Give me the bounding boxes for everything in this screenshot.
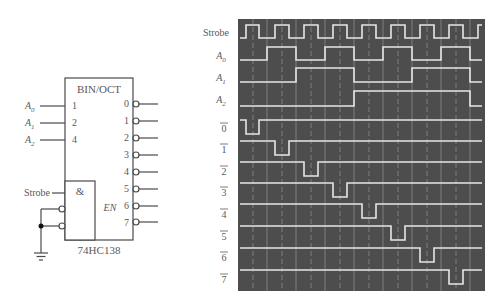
signal-label-out4: 4 <box>222 209 227 220</box>
svg-text:4: 4 <box>124 166 129 177</box>
signal-label-out6: 6 <box>222 252 227 263</box>
svg-text:0: 0 <box>124 98 129 109</box>
svg-text:5: 5 <box>124 183 129 194</box>
figure-canvas: BIN/OCT 74HC138 A0 A1 A2 1 2 4 0 1 2 3 4… <box>0 0 500 307</box>
signal-label-out2: 2 <box>222 166 227 177</box>
ground-icon <box>34 253 48 260</box>
svg-text:3: 3 <box>124 149 129 160</box>
enable-label: EN <box>103 202 118 213</box>
signal-label-out5: 5 <box>222 231 227 242</box>
svg-text:4: 4 <box>72 134 77 145</box>
signal-label-strobe: Strobe <box>203 27 230 38</box>
svg-text:6: 6 <box>124 200 129 211</box>
svg-text:A2: A2 <box>24 134 35 148</box>
decoder-title: BIN/OCT <box>77 83 121 95</box>
enable-bubble-2 <box>59 223 65 229</box>
signal-label-a0: A0 <box>215 50 226 64</box>
svg-text:2: 2 <box>124 132 129 143</box>
signal-label-out1: 1 <box>222 144 227 155</box>
decoder-part-number: 74HC138 <box>78 244 121 256</box>
junction-dot <box>39 224 44 229</box>
svg-text:A0: A0 <box>24 100 35 114</box>
signal-labels: Strobe A0 A1 A2 0 1 2 3 4 5 6 7 <box>203 27 230 285</box>
strobe-label: Strobe <box>24 187 51 198</box>
signal-label-out0: 0 <box>222 123 227 134</box>
svg-text:2: 2 <box>72 117 77 128</box>
enable-bubble-1 <box>59 206 65 212</box>
decoder-symbol <box>34 78 158 260</box>
svg-text:1: 1 <box>72 100 77 111</box>
signal-label-a2: A2 <box>215 94 226 108</box>
svg-text:7: 7 <box>124 217 129 228</box>
svg-text:A1: A1 <box>24 117 35 131</box>
and-gate-symbol: & <box>76 185 85 197</box>
signal-label-a1: A1 <box>215 72 226 86</box>
output-lines <box>133 101 158 225</box>
svg-text:1: 1 <box>124 115 129 126</box>
signal-label-out3: 3 <box>222 187 227 198</box>
signal-label-out7: 7 <box>222 274 227 285</box>
